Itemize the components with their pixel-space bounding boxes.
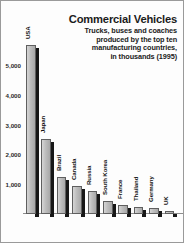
bar[interactable] bbox=[103, 201, 113, 214]
bar-group: Germany bbox=[149, 208, 159, 214]
bar[interactable] bbox=[118, 205, 128, 214]
bar-category-label: South Korea bbox=[101, 160, 108, 195]
bar[interactable] bbox=[72, 186, 82, 214]
bar-category-label: Canada bbox=[70, 158, 77, 179]
bar[interactable] bbox=[26, 45, 36, 214]
bar-category-label: Japan bbox=[39, 116, 46, 133]
bar-group: Canada bbox=[72, 186, 82, 214]
y-axis: 1,0002,0003,0004,0005,000 bbox=[1, 9, 23, 229]
bar-group: Japan bbox=[41, 139, 51, 214]
bar-category-label: USA bbox=[24, 27, 31, 40]
bar-category-label: Russia bbox=[85, 166, 92, 185]
bar-category-label: France bbox=[116, 180, 123, 199]
bar-group: UK bbox=[165, 211, 175, 214]
bar-group: Thailand bbox=[134, 207, 144, 214]
chart-figure: Commercial Vehicles Trucks, buses and co… bbox=[0, 0, 184, 243]
bar-group: Brazil bbox=[57, 177, 67, 214]
plot-area: USAJapanBrazilCanadaRussiaSouth KoreaFra… bbox=[23, 9, 183, 229]
bar[interactable] bbox=[88, 191, 98, 214]
bar-shadow bbox=[173, 214, 177, 217]
bar-category-label: UK bbox=[162, 196, 169, 205]
bar-category-label: Germany bbox=[147, 176, 154, 202]
bar[interactable] bbox=[57, 177, 67, 214]
bar[interactable] bbox=[165, 211, 175, 214]
y-axis-tick-label: 1,000 bbox=[1, 181, 21, 188]
bar-group: South Korea bbox=[103, 201, 113, 214]
bar-category-label: Thailand bbox=[132, 177, 139, 201]
bar-category-label: Brazil bbox=[55, 155, 62, 171]
y-axis-tick-label: 3,000 bbox=[1, 121, 21, 128]
bar[interactable] bbox=[41, 139, 51, 214]
y-axis-tick-label: 2,000 bbox=[1, 151, 21, 158]
bar-group: France bbox=[118, 205, 128, 214]
bar[interactable] bbox=[149, 208, 159, 214]
y-axis-tick-label: 4,000 bbox=[1, 91, 21, 98]
bar-group: Russia bbox=[88, 191, 98, 214]
bar-group: USA bbox=[26, 45, 36, 214]
bar[interactable] bbox=[134, 207, 144, 214]
y-axis-tick-label: 5,000 bbox=[1, 61, 21, 68]
